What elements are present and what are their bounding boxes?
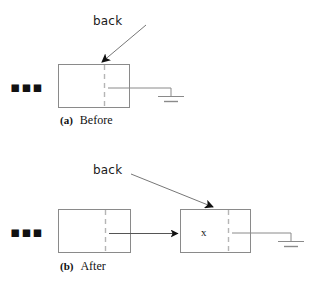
back-pointer-arrow-a — [102, 25, 146, 62]
figure-container: ▪▪▪ back (a)Before ▪▪▪ back x (b)After — [0, 0, 327, 292]
node-b2-value: x — [201, 226, 207, 238]
caption-text-b: After — [80, 259, 105, 273]
panel-after — [59, 174, 305, 253]
node-b2-box — [181, 210, 251, 253]
back-pointer-arrow-b — [131, 174, 213, 207]
node-a1-box — [59, 65, 130, 108]
list-continuation-ellipsis-b: ▪▪▪ — [10, 223, 44, 241]
back-pointer-label-b: back — [93, 163, 122, 177]
node-b1-box — [59, 210, 131, 253]
caption-tag-a: (a) — [60, 114, 73, 126]
list-continuation-ellipsis-a: ▪▪▪ — [10, 78, 44, 96]
caption-before: (a)Before — [60, 113, 112, 128]
caption-tag-b: (b) — [60, 260, 73, 272]
panel-before — [59, 25, 185, 108]
caption-text-a: Before — [80, 113, 113, 127]
diagram-canvas — [0, 0, 327, 292]
back-pointer-label-a: back — [93, 14, 122, 28]
caption-after: (b)After — [60, 259, 106, 274]
